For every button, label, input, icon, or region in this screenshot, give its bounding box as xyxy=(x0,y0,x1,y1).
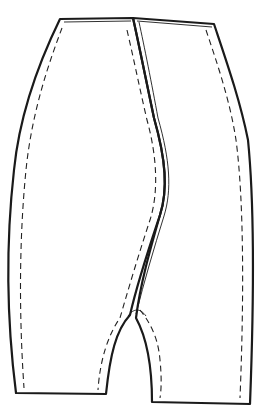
garment-drawing xyxy=(0,0,260,419)
left-leg-panel xyxy=(8,18,164,394)
shorts-pattern-diagram xyxy=(0,0,260,419)
right-leg-panel xyxy=(133,18,253,404)
